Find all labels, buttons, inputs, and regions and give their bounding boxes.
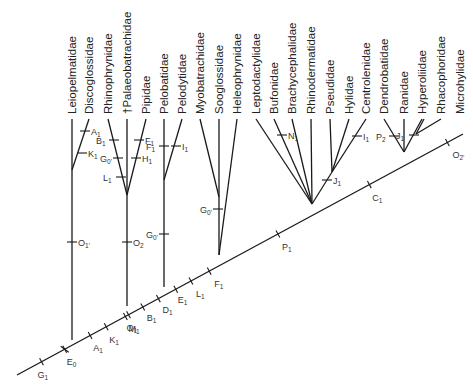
clade-pelobatoidea — [164, 119, 182, 287]
spine-character-label: G1 — [38, 370, 49, 381]
spine-characters: G1E0A1K1M1O1B1D1E1L1F1P1C1O2' — [38, 139, 465, 381]
branch-character-label: I1 — [182, 142, 189, 153]
branch-hyloid-stem — [312, 172, 332, 204]
taxon-label: Bufonidae — [268, 62, 280, 114]
taxon-label: Discoglossidae — [83, 37, 95, 114]
branch-characters: A1K1O1'B1G0'L1F1H1O2F1I1G0'G0'N1J1I1P2J1 — [67, 127, 419, 249]
taxon-label: Microhylidae — [454, 49, 466, 114]
branch-character-label: L1 — [103, 173, 112, 184]
cladogram: LeiopelmatidaeDiscoglossidaeRhinophrynid… — [0, 0, 473, 391]
branch-character-label: O1' — [78, 238, 90, 249]
taxon-label: Myobatrachidae — [194, 32, 206, 114]
taxon-label: Dendrobatidae — [378, 39, 390, 114]
main-spine — [17, 134, 463, 375]
taxon-label: Pseudidae — [324, 60, 336, 114]
taxon-label: Leiopelmatidae — [66, 36, 78, 114]
branch-character-label: P2 — [376, 132, 386, 143]
clade-pipoidea — [108, 119, 146, 306]
spine-character-label: E1 — [178, 295, 188, 306]
taxon-label: Pelodytidae — [176, 54, 188, 114]
spine-character-label: O2' — [452, 150, 464, 161]
branch-character-label: G0' — [200, 205, 212, 216]
taxon-label: Rhacophoridae — [435, 36, 447, 114]
branch-character-label: J1 — [333, 176, 342, 187]
spine-character-label: C1 — [372, 193, 383, 204]
spine-character-label: D1 — [162, 305, 173, 316]
taxon-label: Centrolenidae — [360, 42, 372, 114]
taxon-label: Hyperoliidae — [416, 50, 428, 114]
taxon-label: Brachycephalidae — [286, 23, 298, 114]
taxon-label: Heleophrynidae — [231, 33, 243, 114]
branch-myobatrachidae — [200, 119, 219, 197]
branch-character-label: J1 — [396, 131, 405, 142]
branch-character-label: G0' — [146, 230, 158, 241]
spine-character-label: K1 — [109, 335, 119, 346]
spine-character-label: F1 — [214, 279, 224, 290]
branch-character-label: I1 — [363, 132, 370, 143]
branch-hylidae — [332, 119, 349, 172]
branch-character-label: N1 — [288, 131, 299, 142]
spine-character-label: P1 — [282, 242, 292, 253]
branch-character-label: O2 — [133, 238, 144, 249]
branch-centrolenidae — [332, 119, 366, 172]
spine-character-label: E0 — [67, 357, 77, 368]
branch-brachycephalidae — [292, 119, 312, 204]
taxon-label: Sooglossidae — [213, 45, 225, 114]
branch-heleophrynidae — [219, 119, 237, 255]
branch-character-label: K1 — [88, 149, 98, 160]
taxon-label: Pelobatidae — [158, 53, 170, 114]
taxon-label: Rhinodermatidae — [305, 26, 317, 114]
clade-archaeobatrachia-1 — [72, 119, 89, 340]
branch-character-label: G0' — [100, 154, 112, 165]
branch-character-label: H1 — [142, 154, 153, 165]
spine-character-label: B1 — [147, 313, 157, 324]
taxon-label: Hylidae — [343, 76, 355, 114]
branch-rhinodermatidae — [311, 119, 312, 204]
taxon-labels: LeiopelmatidaeDiscoglossidaeRhinophrynid… — [66, 12, 466, 114]
spine-character-label: A1 — [93, 343, 103, 354]
taxon-label: †Palaeobatrachidae — [121, 12, 133, 114]
clade-leptodactyloid — [256, 119, 366, 204]
taxon-label: Ranidae — [398, 71, 410, 114]
taxon-label: Leptodactylidae — [250, 33, 262, 114]
clade-myobatrachoid — [200, 119, 237, 255]
taxon-label: Pipidae — [140, 76, 152, 114]
branch-pseudidae — [330, 119, 332, 172]
taxon-label: Rhinophrynidae — [102, 33, 114, 114]
branch-character-label: B1 — [96, 136, 106, 147]
branch-leptodactylidae — [256, 119, 312, 204]
branch-pelodytidae — [164, 119, 182, 180]
branch-discoglossidae — [72, 119, 89, 170]
spine-character-label: L1 — [196, 289, 205, 300]
